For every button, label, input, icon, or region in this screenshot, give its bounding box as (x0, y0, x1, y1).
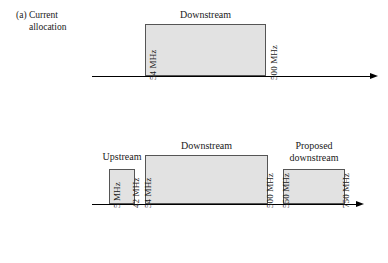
panel-a-tag: (a) (16, 10, 27, 22)
panel-b-tick-54: 54 MHz (143, 178, 153, 208)
panel-b-band-downstream (145, 155, 268, 204)
band-label-text-line-1: Proposed (276, 140, 352, 152)
panel-proposed-allocation: (b) Proposed hybrid fiber-coaxial alloca… (0, 131, 388, 263)
panel-a-band-label-downstream: Downstream (145, 9, 266, 21)
frequency-allocation-figure: (a) Current allocation Downstream 54 MHz… (0, 0, 388, 263)
panel-b-axis-arrow-icon (356, 201, 364, 207)
panel-b-band-label-downstream: Downstream (145, 140, 268, 152)
band-label-text: Downstream (145, 9, 266, 21)
panel-a-axis-arrow-icon (370, 73, 378, 79)
band-label-text-line-2: downstream (276, 152, 352, 164)
panel-b-tick-750: 750 MHz (341, 173, 351, 208)
panel-b-tick-550: 550 MHz (281, 173, 291, 208)
panel-a-axis (92, 76, 374, 77)
panel-b-tick-5: 5 MHz (112, 182, 122, 208)
panel-b-tick-42: 42 MHz (131, 178, 141, 208)
panel-current-allocation: (a) Current allocation Downstream 54 MHz… (0, 0, 388, 131)
panel-a-caption: (a) Current allocation (16, 10, 66, 33)
panel-a-caption-line-2: allocation (29, 22, 66, 34)
band-label-text: Downstream (145, 140, 268, 152)
panel-b-tick-500: 500 MHz (265, 173, 275, 208)
panel-b-band-label-proposed-downstream: Proposed downstream (276, 140, 352, 163)
panel-a-tick-54: 54 MHz (148, 50, 158, 80)
panel-a-band-downstream (145, 24, 266, 76)
panel-a-caption-lines: Current allocation (29, 10, 66, 33)
panel-b-band-proposed-downstream (283, 169, 345, 204)
panel-a-caption-line-1: Current (29, 10, 66, 22)
panel-a-tick-500: 500 MHz (269, 45, 279, 80)
